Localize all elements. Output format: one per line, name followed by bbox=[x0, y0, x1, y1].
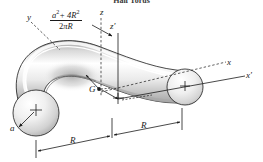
dim-line-R-right bbox=[114, 122, 180, 135]
z-prime-axis-label: z′ bbox=[110, 22, 115, 31]
centroid-tick bbox=[101, 88, 112, 89]
y-axis-label: y bbox=[27, 13, 31, 22]
tube-radius-label: a bbox=[10, 124, 15, 133]
x-prime-axis-label: x′ bbox=[246, 71, 252, 80]
formula-den-R: R bbox=[67, 21, 72, 31]
major-radius-left-label: R bbox=[70, 136, 76, 145]
major-radius-right-label: R bbox=[141, 121, 147, 130]
formula-num-rest-exp: 2 bbox=[77, 9, 80, 15]
figure-title: Half Torus bbox=[0, 0, 263, 5]
formula-num-rest: + 4R bbox=[59, 10, 76, 20]
x-axis-label: x bbox=[227, 58, 231, 67]
centroid-offset-arrow bbox=[102, 90, 118, 99]
formula-leader-arrow bbox=[92, 25, 112, 36]
centroid-formula: a2+ 4R2 2πR bbox=[50, 11, 82, 30]
centroid-label: G bbox=[89, 85, 96, 94]
half-torus-figure bbox=[0, 0, 263, 162]
torus-solid bbox=[13, 41, 203, 136]
formula-denominator: 2πR bbox=[50, 21, 82, 30]
formula-numerator: a2+ 4R2 bbox=[50, 11, 82, 21]
z-axis-label: z bbox=[100, 8, 104, 17]
